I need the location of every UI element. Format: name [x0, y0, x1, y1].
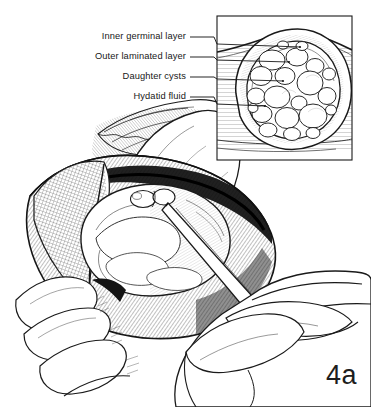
callout-label-daughter-cysts: Daughter cysts: [123, 71, 186, 81]
callout-label-inner-germinal-layer: Inner germinal layer: [102, 31, 186, 41]
callout-label-outer-laminated-layer: Outer laminated layer: [95, 51, 186, 61]
figure-number: 4a: [326, 360, 357, 391]
inset-cyst-cross-section: [0, 0, 371, 407]
figure-root: Inner germinal layer Outer laminated lay…: [0, 0, 371, 407]
callout-label-hydatid-fluid: Hydatid fluid: [134, 91, 186, 101]
callout-leader-lines: [190, 37, 217, 104]
